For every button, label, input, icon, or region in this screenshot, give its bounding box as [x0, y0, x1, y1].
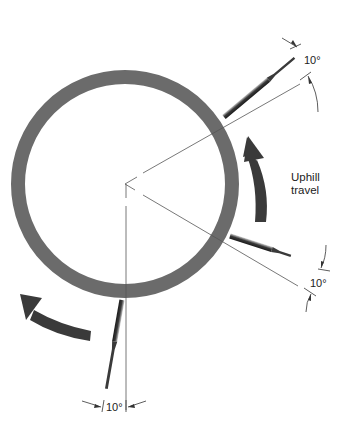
- uphill-label-line2: travel: [291, 184, 319, 196]
- angle-label-right: 10°: [310, 277, 327, 289]
- tool-top-right: [222, 56, 296, 119]
- uphill-label-line1: Uphill: [291, 171, 320, 183]
- tool-bottom: [104, 300, 125, 390]
- angle-label-bottom: 10°: [106, 401, 123, 413]
- rotation-arrow-lower-left: [30, 310, 91, 341]
- tool-lower-right: [229, 234, 291, 259]
- angle-mark-top: [282, 38, 318, 112]
- angle-label-top: 10°: [304, 54, 321, 66]
- welding-angle-diagram: 10° 10° 10° Uphill travel: [0, 0, 340, 425]
